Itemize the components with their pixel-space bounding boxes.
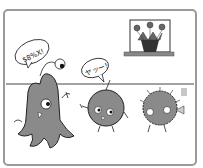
cartoon-panel: $8%X! ヤッー! (0, 0, 203, 168)
window-plant (124, 20, 174, 56)
